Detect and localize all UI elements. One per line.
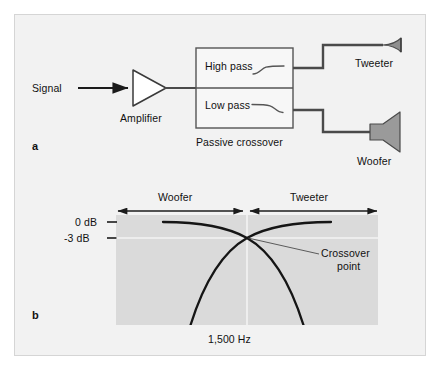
y-axis-label-0db: 0 dB	[75, 216, 97, 228]
x-axis-frequency-label: 1,500 Hz	[208, 333, 251, 345]
crossover-point-label-line2: point	[337, 260, 360, 272]
crossover-point-label-line1: Crossover	[321, 247, 370, 259]
woofer-label: Woofer	[357, 155, 391, 167]
high-pass-label: High pass	[205, 60, 253, 72]
woofer-range-label: Woofer	[158, 191, 192, 203]
panel-b-letter: b	[32, 309, 39, 321]
figure-vector-layer	[0, 0, 440, 373]
tweeter-horn-icon	[383, 38, 401, 52]
low-pass-label: Low pass	[205, 99, 250, 111]
passive-crossover-label: Passive crossover	[196, 136, 283, 148]
tweeter-label: Tweeter	[355, 57, 393, 69]
panel-a-letter: a	[32, 140, 38, 152]
crossover-to-woofer-wire	[293, 110, 370, 132]
y-axis-label-minus3db: -3 dB	[64, 232, 90, 244]
tweeter-range-label: Tweeter	[290, 191, 328, 203]
woofer-cone-icon	[370, 112, 400, 152]
signal-label: Signal	[32, 82, 62, 94]
amplifier-label: Amplifier	[120, 112, 162, 124]
amplifier-symbol	[133, 70, 166, 106]
figure-container: a b Signal Amplifier High pass Low pass …	[0, 0, 440, 373]
